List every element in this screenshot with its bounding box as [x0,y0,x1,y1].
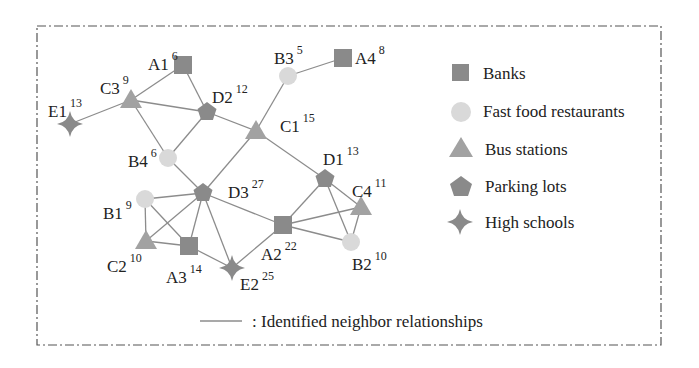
node-label-D3: D327 [228,177,264,202]
node-A2 [274,216,292,234]
node-degree: 9 [123,73,129,87]
node-label-D1: D113 [323,144,359,169]
square-icon [334,49,352,67]
node-degree: 12 [236,82,248,96]
edge-D3-E2 [203,193,232,268]
pentagon-icon [316,169,335,187]
triangle-icon [245,120,267,139]
legend-item-bus-stations: Bus stations [449,137,568,159]
legend-label: Parking lots [485,177,567,196]
square-icon [274,216,292,234]
node-degree: 10 [375,249,387,263]
triangle-icon [449,137,473,157]
node-C3 [120,89,142,108]
square-icon [180,237,198,255]
legend-item-high-schools: High schools [447,209,574,235]
legend-label: Fast food restaurants [483,102,625,121]
node-label-A1: A16 [148,49,178,74]
edge-D3-C2 [146,193,203,241]
node-label-B3: B35 [274,43,303,68]
node-degree: 8 [379,43,385,57]
labels-layer: A16A222A314A48B19B210B35B46C115C210C39C4… [48,43,387,294]
node-C1 [245,120,267,139]
node-A4 [334,49,352,67]
circle-icon [136,190,154,208]
node-label-C3: C39 [100,73,129,98]
legend-label: Banks [483,64,526,83]
star-icon [447,209,473,235]
node-degree: 15 [303,111,315,125]
node-B3 [279,67,297,85]
legend: Banks Fast food restaurants Bus stations… [200,64,625,331]
node-degree: 13 [347,144,359,158]
circle-icon [279,67,297,85]
edge-C3-B4 [131,100,168,158]
node-label-A2: A222 [261,239,297,264]
circle-icon [159,149,177,167]
node-B4 [159,149,177,167]
circle-icon [451,102,471,122]
node-C2 [135,230,157,249]
node-degree: 10 [130,251,142,265]
node-degree: 14 [190,262,202,276]
node-label-C4: C411 [352,176,386,201]
triangle-icon [120,89,142,108]
legend-label: Bus stations [485,140,568,159]
triangle-icon [135,230,157,249]
node-B1 [136,190,154,208]
node-degree: 9 [126,198,132,212]
edge-legend-label: : Identified neighbor relationships [252,312,483,331]
node-label-A4: A48 [355,43,385,68]
node-label-B2: B210 [352,249,387,274]
node-B2 [342,233,360,251]
legend-item-parking-lots: Parking lots [450,176,567,196]
edge-C3-D2 [131,100,207,112]
node-degree: 27 [252,177,264,191]
legend-item-fast-food: Fast food restaurants [451,102,625,122]
node-A3 [180,237,198,255]
node-D1 [316,169,335,187]
node-label-B1: B19 [103,198,132,223]
pentagon-icon [450,176,472,196]
node-degree: 11 [375,176,387,190]
square-icon [452,64,469,81]
legend-item-banks: Banks [452,64,526,83]
node-degree: 13 [70,96,82,110]
legend-edge: : Identified neighbor relationships [200,312,483,331]
node-label-A3: A314 [166,262,202,287]
legend-label: High schools [485,213,574,232]
node-degree: 22 [285,239,297,253]
node-degree: 5 [297,43,303,57]
diagram-border [37,26,661,345]
node-label-B4: B46 [128,146,157,171]
node-degree: 6 [172,49,178,63]
node-label-C2: C210 [107,251,142,276]
neighbor-relationship-diagram: A16A222A314A48B19B210B35B46C115C210C39C4… [0,0,699,368]
circle-icon [342,233,360,251]
node-degree: 6 [151,146,157,160]
node-label-D2: D212 [212,82,248,107]
node-degree: 25 [262,269,274,283]
edge-A2-C4 [283,207,361,225]
node-label-E2: E225 [240,269,274,294]
node-label-E1: E113 [48,96,82,121]
node-label-C1: C115 [280,111,315,136]
